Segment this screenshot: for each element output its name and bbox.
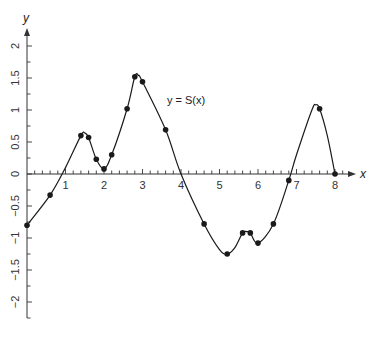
x-tick-label: 1 [62,179,68,191]
data-point [24,222,30,228]
data-point [255,240,261,246]
data-point [140,79,146,85]
data-point [124,106,130,112]
y-tick-label: 2 [9,43,21,49]
x-tick-label: 4 [178,179,184,191]
data-point [248,230,254,236]
y-tick-label: −1 [9,232,21,245]
x-tick-label: 5 [216,179,222,191]
y-axis-arrow-icon [24,28,30,36]
x-axis: 12345678 [27,169,356,191]
data-point [332,171,338,177]
data-point [201,221,207,227]
data-point [132,74,138,80]
y-tick-label: 1 [9,107,21,113]
x-axis-label: x [359,167,367,181]
data-point [101,166,107,172]
x-tick-label: 3 [139,179,145,191]
y-tick-label: 1.5 [9,70,21,85]
y-tick-label: −1.5 [9,259,21,281]
data-point [286,178,292,184]
y-tick-label: 0.5 [9,134,21,149]
data-point [317,106,323,112]
data-point [78,133,84,139]
x-tick-label: 6 [255,179,261,191]
x-axis-arrow-icon [348,171,356,177]
data-point [86,135,92,141]
chart: 12345678 21.510.50−0.5−1−1.5−2 x y y = S… [0,0,375,338]
y-tick-label: −0.5 [9,195,21,217]
y-axis-label: y [22,11,30,25]
x-tick-label: 8 [332,179,338,191]
y-tick-label: 0 [9,171,21,177]
data-point [163,127,169,133]
data-point [109,152,115,158]
data-point [240,230,246,236]
data-point [224,251,230,257]
y-tick-label: −2 [9,296,21,309]
x-tick-label: 2 [101,179,107,191]
x-tick-label: 7 [293,179,299,191]
y-axis: 21.510.50−0.5−1−1.5−2 [9,28,32,318]
data-point [271,221,277,227]
data-point [94,156,100,162]
curve-label: y = S(x) [167,94,205,106]
data-point [47,192,53,198]
